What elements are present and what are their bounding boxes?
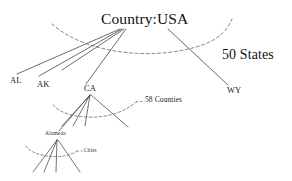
edge-ca-to-county-5	[91, 95, 128, 127]
annotation-58-counties: 58 Counties	[145, 96, 182, 104]
state-node-al: AL	[10, 76, 22, 85]
tree-canvas	[0, 0, 292, 181]
root-to-states-edges	[17, 29, 228, 85]
edge-root-to-al	[17, 29, 120, 74]
alameda-to-cities-edges	[33, 140, 80, 172]
state-node-ak: AK	[37, 80, 49, 89]
counties-ellipsis-arc	[53, 102, 136, 117]
edge-root-to-ak	[39, 29, 122, 76]
counties-leader-line	[136, 101, 144, 102]
county-node-alameda: Alameda	[45, 131, 66, 137]
edge-root-to-ca	[86, 29, 126, 84]
state-node-wy: WY	[227, 86, 241, 95]
root-node-label: Country:USA	[101, 11, 188, 27]
state-node-ca: CA	[84, 84, 96, 93]
hierarchy-diagram: Country:USA 50 States AL AK CA WY 58 Cou…	[0, 0, 292, 181]
edge-root-to-wy	[168, 29, 228, 85]
edge-alameda-to-city-3	[56, 140, 57, 172]
edge-root-to-mid1	[62, 29, 124, 70]
ca-to-counties-edges	[59, 95, 128, 131]
annotation-cities: Cities	[84, 148, 97, 153]
edge-alameda-to-city-4	[58, 140, 80, 172]
annotation-50-states: 50 States	[222, 48, 274, 62]
